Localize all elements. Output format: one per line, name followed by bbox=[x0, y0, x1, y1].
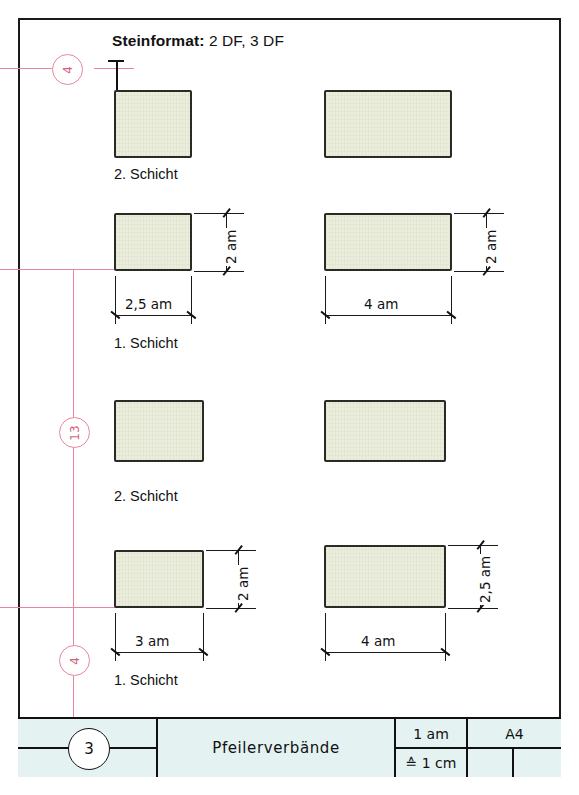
page-title-value: 2 DF, 3 DF bbox=[209, 32, 284, 49]
scale-bottom-label: ≙ 1 cm bbox=[406, 755, 457, 771]
construction-line-mid-lower bbox=[0, 607, 120, 608]
brick-r4-right bbox=[324, 545, 446, 608]
layer-caption-r4: 1. Schicht bbox=[114, 672, 178, 688]
dim-line-r4r-horz bbox=[325, 652, 446, 653]
dim-ext-r2r-bottom bbox=[454, 271, 504, 272]
brick-r3-right bbox=[324, 400, 446, 462]
dim-label-r4l-width: 3 am bbox=[133, 633, 171, 649]
dim-ext-r4l-bottom bbox=[206, 608, 256, 609]
dim-label-r4l-height: 2 am bbox=[235, 565, 251, 603]
title-block: 3 Pfeilerverbände 1 am ≙ 1 cm A4 bbox=[18, 717, 561, 777]
brick-r4-left bbox=[114, 550, 204, 608]
page-title: Steinformat: 2 DF, 3 DF bbox=[112, 32, 284, 50]
brick-r3-left bbox=[114, 400, 204, 462]
paper-format-label: A4 bbox=[505, 726, 523, 742]
dim-line-r2l-horz bbox=[115, 315, 192, 316]
marker-circle-middle: 13 bbox=[59, 417, 90, 448]
dim-line-r4l-horz bbox=[115, 652, 204, 653]
marker-circle-top: 4 bbox=[52, 54, 83, 85]
construction-line-vertical bbox=[73, 269, 74, 751]
dim-ext-r4r-bottom bbox=[448, 608, 498, 609]
drawing-title: Pfeilerverbände bbox=[212, 739, 340, 757]
construction-line-mid-upper bbox=[0, 269, 120, 270]
construction-line-top-right bbox=[94, 68, 134, 69]
dim-label-r2r-width: 4 am bbox=[362, 296, 400, 312]
title-block-cell-blank-2 bbox=[514, 748, 561, 777]
page-title-label: Steinformat: bbox=[112, 32, 204, 49]
marker-circle-bottom-label: 4 bbox=[67, 657, 81, 665]
title-block-cell-scale-top: 1 am bbox=[396, 719, 468, 748]
dim-label-r2l-height: 2 am bbox=[223, 228, 239, 266]
marker-circle-middle-label: 13 bbox=[68, 425, 82, 440]
title-block-cell-blank-1 bbox=[468, 748, 514, 777]
title-block-scale-divider bbox=[396, 747, 468, 749]
dim-label-r2r-height: 2 am bbox=[483, 228, 499, 266]
construction-tick-top-cap bbox=[108, 60, 124, 62]
title-block-cell-format: A4 bbox=[468, 719, 561, 748]
dim-ext-r2l-bottom bbox=[194, 271, 244, 272]
dim-ext-r4r-top bbox=[448, 545, 498, 546]
dim-label-r2l-width: 2,5 am bbox=[123, 296, 174, 312]
sheet-number-badge: 3 bbox=[68, 728, 110, 770]
dim-label-r4r-height: 2,5 am bbox=[477, 554, 493, 605]
dim-label-r4r-width: 4 am bbox=[359, 633, 397, 649]
layer-caption-r3: 2. Schicht bbox=[114, 488, 178, 504]
title-block-cell-title: Pfeilerverbände bbox=[158, 719, 396, 777]
brick-r2-right bbox=[324, 213, 452, 271]
construction-line-top-left bbox=[0, 68, 52, 69]
dim-ext-r4l-top bbox=[206, 550, 256, 551]
brick-r1-left bbox=[114, 90, 192, 158]
layer-caption-r1: 2. Schicht bbox=[114, 166, 178, 182]
title-block-cell-scale-bottom: ≙ 1 cm bbox=[396, 748, 468, 777]
marker-circle-bottom: 4 bbox=[59, 645, 90, 676]
layer-caption-r2: 1. Schicht bbox=[114, 335, 178, 351]
drawing-sheet: 4 13 4 Steinformat: 2 DF, 3 DF 2. Schich… bbox=[18, 18, 561, 777]
brick-r2-left bbox=[114, 213, 192, 271]
scale-top-label: 1 am bbox=[413, 726, 449, 742]
dim-line-r2r-horz bbox=[325, 315, 452, 316]
brick-r1-right bbox=[324, 90, 452, 158]
dim-ext-r2r-top bbox=[454, 213, 504, 214]
marker-circle-top-label: 4 bbox=[60, 66, 74, 74]
dim-ext-r2l-top bbox=[194, 213, 244, 214]
sheet-number-label: 3 bbox=[84, 740, 94, 758]
sheet-frame bbox=[18, 18, 561, 777]
